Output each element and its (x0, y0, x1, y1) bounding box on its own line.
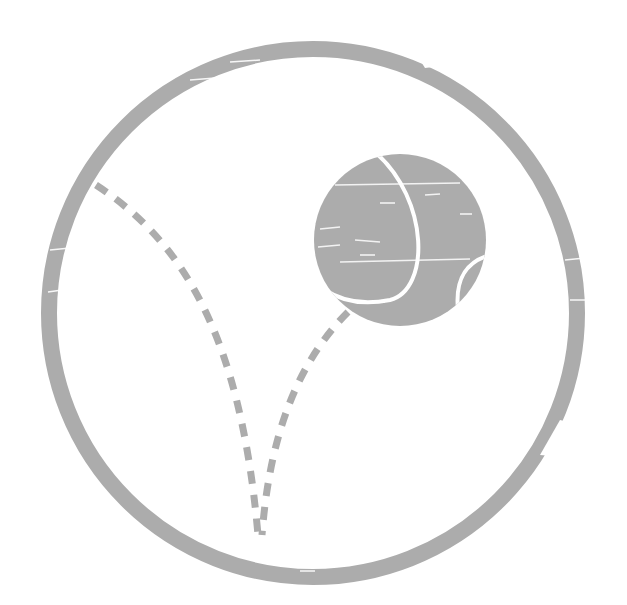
outer-ring-icon (48, 49, 600, 577)
bounce-trajectory-icon (96, 185, 348, 535)
tennis-ball-icon (314, 152, 490, 326)
tennis-bounce-icon: Tennis ball bounce icon (0, 0, 627, 605)
